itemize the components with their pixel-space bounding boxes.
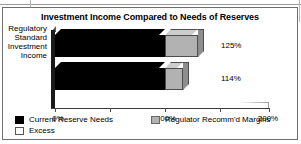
chart-container: Investment Income Compared to Needs of R… xyxy=(2,7,298,140)
plot-area: Regulatory Standard Investment Income 12… xyxy=(3,24,297,114)
category-label-line-2: Standard xyxy=(3,33,47,42)
legend-item-excess: Excess xyxy=(15,126,55,135)
legend-label: Current Reserve Needs xyxy=(29,115,113,124)
cropped-frame-sliver xyxy=(0,0,301,5)
bar-segment-regulator-margins xyxy=(165,68,183,90)
x-tick-100 xyxy=(165,108,166,112)
bar-side-face xyxy=(183,62,189,90)
legend-item-regulator-margins: Regulator Recomm'd Margins xyxy=(151,115,271,124)
legend-item-current-reserve-needs: Current Reserve Needs xyxy=(15,115,113,124)
category-label-line-2: Income xyxy=(3,51,47,60)
data-label-regulatory-standard: 125% xyxy=(221,41,241,50)
legend-swatch-white-icon xyxy=(15,127,24,135)
chart-legend: Current Reserve Needs Excess Regulator R… xyxy=(3,115,297,139)
chart-title: Investment Income Compared to Needs of R… xyxy=(3,12,297,22)
legend-swatch-gray-icon xyxy=(151,116,160,124)
data-label-investment-income: 114% xyxy=(221,74,241,83)
bar-segment-regulator-margins xyxy=(165,35,198,57)
legend-label: Excess xyxy=(29,126,55,135)
category-label-line-1: Investment xyxy=(3,42,47,51)
x-tick-150 xyxy=(220,108,221,112)
bar-segment-current-reserve-needs xyxy=(55,68,165,90)
legend-label: Regulator Recomm'd Margins xyxy=(165,115,271,124)
x-tick-50 xyxy=(110,108,111,112)
value-axis-line xyxy=(51,108,269,109)
x-tick-200 xyxy=(269,108,270,112)
bar-segment-current-reserve-needs xyxy=(55,35,165,57)
x-tick-0 xyxy=(55,108,56,112)
category-label-line-1: Regulatory xyxy=(3,24,47,33)
legend-swatch-black-icon xyxy=(15,116,24,124)
sliver-edge xyxy=(299,0,300,22)
